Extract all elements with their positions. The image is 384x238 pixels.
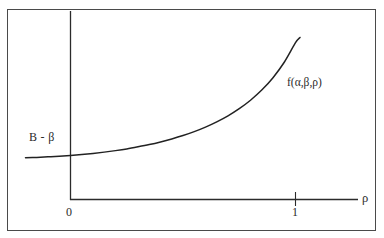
curve-group (26, 37, 301, 157)
x-tick-label-one: 1 (292, 206, 298, 218)
plot-canvas (0, 0, 384, 238)
x-tick-label-zero: 0 (66, 206, 72, 218)
x-axis-name-label: ρ (362, 192, 368, 205)
figure-root: B - β f(α,β,ρ) 0 1 ρ (0, 0, 384, 238)
y-intercept-label: B - β (29, 131, 55, 143)
function-curve (26, 37, 301, 157)
curve-function-label: f(α,β,ρ) (287, 77, 322, 89)
axes-group (70, 11, 358, 206)
